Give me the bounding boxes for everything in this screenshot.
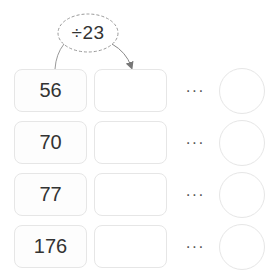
remainder-circle[interactable] — [219, 68, 265, 114]
ellipsis-icon: ··· — [182, 69, 208, 112]
input-box: 70 — [14, 121, 87, 164]
input-box: 77 — [14, 173, 87, 216]
remainder-circle[interactable] — [219, 120, 265, 166]
table-row: 56 ··· — [0, 69, 275, 113]
answer-box[interactable] — [94, 225, 167, 268]
answer-box[interactable] — [94, 173, 167, 216]
remainder-circle[interactable] — [219, 172, 265, 218]
answer-box[interactable] — [94, 69, 167, 112]
answer-box[interactable] — [94, 121, 167, 164]
table-row: 176 ··· — [0, 225, 275, 269]
ellipsis-icon: ··· — [182, 173, 208, 216]
remainder-circle[interactable] — [219, 224, 265, 270]
input-box: 56 — [14, 69, 87, 112]
table-row: 77 ··· — [0, 173, 275, 217]
ellipsis-icon: ··· — [182, 121, 208, 164]
input-box: 176 — [14, 225, 87, 268]
table-row: 70 ··· — [0, 121, 275, 165]
ellipsis-icon: ··· — [182, 225, 208, 268]
operation-label: ÷23 — [58, 14, 118, 52]
